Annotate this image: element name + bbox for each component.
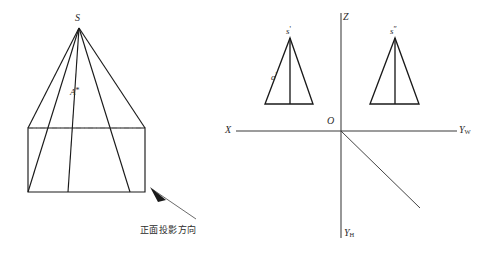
front-view-point-prime: ' bbox=[276, 71, 277, 80]
pyramid-group bbox=[28, 28, 145, 192]
axis-label-x: X bbox=[225, 125, 231, 135]
arrow-leader-line bbox=[152, 189, 196, 219]
side-view-apex-prime: ″ bbox=[394, 25, 397, 34]
arrow-head bbox=[150, 187, 166, 202]
axis-label-yw: YW bbox=[459, 125, 471, 136]
pyramid-apex-label: S bbox=[75, 13, 80, 23]
pyramid-edge-left-front bbox=[28, 28, 79, 192]
pyramid-face-prime: * bbox=[76, 86, 80, 95]
pyramid-edge-right-front bbox=[79, 28, 130, 192]
side-view-apex-label: s″ bbox=[390, 26, 397, 36]
front-view-apex-label: s' bbox=[286, 26, 291, 36]
projection-direction-arrow-group bbox=[150, 187, 196, 219]
projection-direction-caption: 正面投影方向 bbox=[140, 223, 196, 236]
axis-diagonal-45 bbox=[341, 131, 420, 208]
pyramid-edge-left-back bbox=[28, 28, 79, 128]
axes-group bbox=[236, 13, 457, 238]
axis-label-z: Z bbox=[343, 12, 349, 22]
axis-label-yh-subscript: H bbox=[350, 231, 355, 238]
drawing-canvas: S A* 正面投影方向 Z X YW YH O s' a' s″ bbox=[0, 0, 477, 254]
front-view-triangle bbox=[265, 38, 313, 104]
pyramid-edge-center-front bbox=[68, 28, 79, 192]
pyramid-face-label: A* bbox=[70, 87, 80, 97]
side-view-triangle bbox=[370, 38, 419, 104]
pyramid-edge-right-back bbox=[79, 28, 145, 128]
front-triangle-outline bbox=[265, 38, 313, 104]
technical-drawing-svg bbox=[0, 0, 477, 254]
front-view-apex-prime: ' bbox=[290, 25, 291, 34]
axis-label-origin: O bbox=[327, 116, 334, 126]
axis-label-yw-subscript: W bbox=[465, 128, 471, 135]
front-view-point-label: a' bbox=[271, 72, 277, 82]
axis-label-yh: YH bbox=[344, 228, 354, 239]
